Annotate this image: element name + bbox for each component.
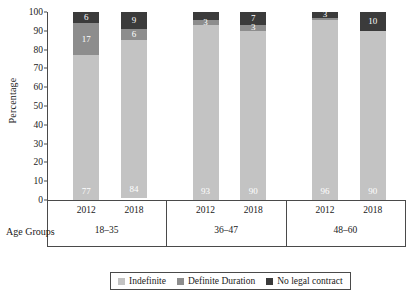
legend-label: Indefinite: [129, 276, 166, 286]
x-axis-tick-label-2018: 2018: [124, 205, 143, 215]
x-axis-group-label: 36–47: [214, 225, 238, 235]
bar-36-47-2012[interactable]: 393: [193, 12, 219, 200]
bar-segment-indefinite[interactable]: 84: [121, 40, 147, 198]
y-axis-tick-label: 0: [38, 195, 43, 205]
x-axis-tick-label-2012: 2012: [315, 205, 334, 215]
x-axis-bottom-rule: [47, 246, 406, 247]
y-axis-tick-mark: [44, 30, 47, 31]
y-axis-tick-mark: [44, 12, 47, 13]
legend-swatch-icon: [177, 278, 184, 285]
bar-segment-value: 96: [320, 187, 329, 196]
bar-segment-indefinite[interactable]: 93: [193, 25, 219, 200]
y-axis-tick-label: 50: [34, 101, 44, 111]
legend-label: Definite Duration: [188, 276, 255, 286]
bar-segment-indefinite[interactable]: 96: [312, 20, 338, 200]
x-axis-group-separator: [47, 201, 48, 246]
legend-item[interactable]: No legal contract: [266, 276, 342, 286]
x-axis-tick-label-2018: 2018: [244, 205, 263, 215]
bar-segment-value: 6: [132, 30, 137, 39]
bar-segment-nolegal[interactable]: 9: [121, 12, 147, 29]
bar-segment-indefinite[interactable]: 90: [360, 31, 386, 200]
x-axis-group-separator: [405, 201, 406, 246]
bar-18-35-2012[interactable]: 61777: [73, 12, 99, 200]
bar-segment-value: 9: [132, 16, 137, 25]
x-axis-tick-label-2012: 2012: [77, 205, 96, 215]
bar-segment-value: 17: [82, 35, 91, 44]
bar-segment-value: 90: [368, 187, 377, 196]
legend-label: No legal contract: [277, 276, 342, 286]
x-axis-tick-label-2012: 2012: [196, 205, 215, 215]
plot-area: 0102030405060708090100617779684393739039…: [47, 12, 405, 200]
y-axis-title: Percentage: [7, 51, 18, 151]
y-axis-tick-label: 10: [34, 176, 44, 186]
legend-swatch-icon: [266, 278, 273, 285]
bar-segment-indefinite[interactable]: 77: [73, 55, 99, 200]
y-axis-tick-label: 90: [34, 26, 44, 36]
x-axis-group-separator: [286, 201, 287, 246]
bar-segment-indefinite[interactable]: 90: [240, 31, 266, 200]
bar-segment-nolegal[interactable]: 10: [360, 12, 386, 31]
bar-48-60-2018[interactable]: 1090: [360, 12, 386, 200]
bar-48-60-2012[interactable]: 396: [312, 12, 338, 200]
y-axis-tick-label: 70: [34, 63, 44, 73]
legend-item[interactable]: Indefinite: [118, 276, 166, 286]
legend-item[interactable]: Definite Duration: [177, 276, 255, 286]
x-axis-tick-label-2018: 2018: [363, 205, 382, 215]
y-axis-tick-mark: [44, 106, 47, 107]
bar-segment-value: 10: [368, 17, 377, 26]
stacked-bar-chart: Percentage 01020304050607080901006177796…: [0, 0, 419, 302]
bar-18-35-2018[interactable]: 9684: [121, 12, 147, 200]
y-axis-tick-mark: [44, 143, 47, 144]
bar-segment-definite[interactable]: 6: [121, 29, 147, 40]
legend-swatch-icon: [118, 278, 125, 285]
y-axis-tick-label: 100: [29, 7, 43, 17]
x-axis-title: Age Groups: [6, 226, 55, 237]
bar-segment-value: 6: [84, 13, 89, 22]
x-axis-group-separator: [166, 201, 167, 246]
bar-segment-nolegal[interactable]: 6: [73, 12, 99, 23]
y-axis-tick-mark: [44, 162, 47, 163]
bar-segment-value: 84: [129, 185, 138, 194]
bar-segment-definite[interactable]: 17: [73, 23, 99, 55]
x-axis-area: 2012201818–352012201836–472012201848–60: [47, 201, 406, 246]
y-axis-tick-mark: [44, 68, 47, 69]
bar-36-47-2018[interactable]: 7390: [240, 12, 266, 200]
x-axis-group-label: 18–35: [95, 225, 119, 235]
y-axis-tick-label: 40: [34, 120, 44, 130]
bar-segment-value: 90: [249, 187, 258, 196]
y-axis-tick-mark: [44, 124, 47, 125]
y-axis-tick-mark: [44, 181, 47, 182]
bar-segment-value: 93: [201, 187, 210, 196]
chart-legend: IndefiniteDefinite DurationNo legal cont…: [110, 272, 351, 290]
y-axis-tick-label: 30: [34, 139, 44, 149]
x-axis-group-label: 48–60: [333, 225, 357, 235]
y-axis-tick-label: 20: [34, 157, 44, 167]
y-axis-tick-label: 80: [34, 45, 44, 55]
y-axis-tick-mark: [44, 87, 47, 88]
y-axis-tick-mark: [44, 49, 47, 50]
bar-segment-value: 77: [82, 187, 91, 196]
y-axis-tick-label: 60: [34, 82, 44, 92]
